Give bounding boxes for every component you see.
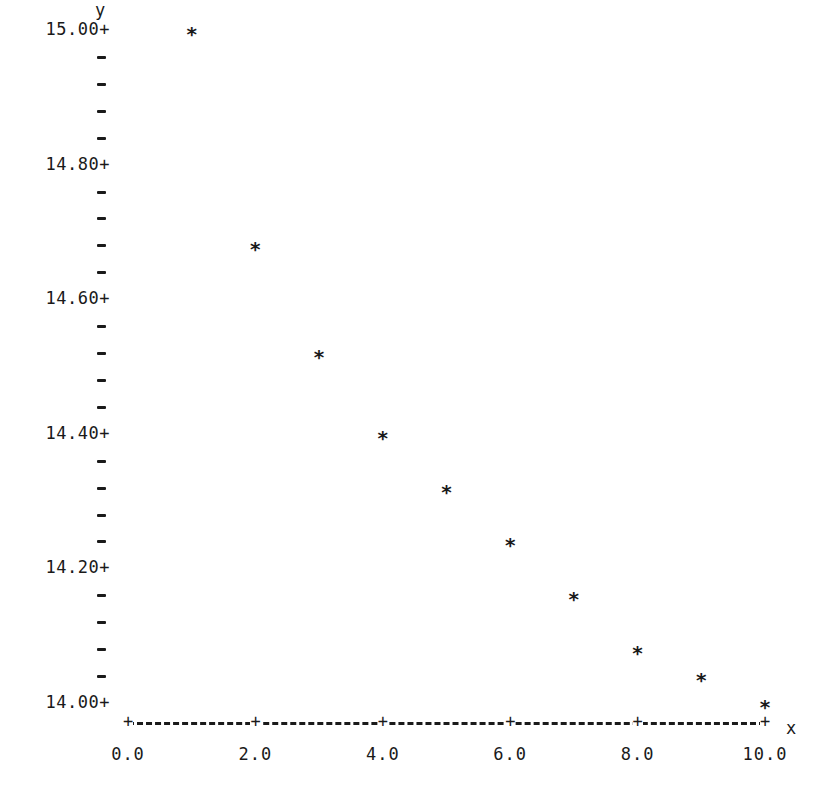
data-point: * <box>313 347 325 367</box>
y-minor-tick <box>97 352 106 355</box>
y-minor-tick <box>97 621 106 624</box>
data-point: * <box>186 24 198 44</box>
y-minor-tick <box>97 83 106 86</box>
data-point: * <box>504 535 516 555</box>
y-tick-label: 14.20+ <box>0 557 110 577</box>
x-tick-label: 4.0 <box>366 744 400 764</box>
y-minor-tick <box>97 325 106 328</box>
y-minor-tick <box>97 594 106 597</box>
y-minor-tick <box>97 244 106 247</box>
x-major-tick: + <box>123 711 133 731</box>
y-axis-name: y <box>95 0 105 20</box>
y-minor-tick <box>97 379 106 382</box>
x-tick-label: 8.0 <box>621 744 655 764</box>
y-tick-label: 14.40+ <box>0 423 110 443</box>
data-point: * <box>759 697 771 717</box>
y-minor-tick <box>97 56 106 59</box>
data-point: * <box>632 643 644 663</box>
y-minor-tick <box>97 514 106 517</box>
data-point: * <box>695 670 707 690</box>
y-tick-label: 15.00+ <box>0 19 110 39</box>
y-tick-label: 14.60+ <box>0 288 110 308</box>
y-tick-label: 14.00+ <box>0 692 110 712</box>
y-minor-tick <box>97 406 106 409</box>
y-minor-tick <box>97 675 106 678</box>
y-minor-tick <box>97 137 106 140</box>
x-axis-line <box>128 722 765 725</box>
x-tick-label: 10.0 <box>743 744 788 764</box>
x-tick-label: 2.0 <box>239 744 273 764</box>
x-tick-label: 0.0 <box>111 744 145 764</box>
x-axis-name: x <box>786 718 796 738</box>
data-point: * <box>440 482 452 502</box>
y-minor-tick <box>97 191 106 194</box>
data-point: * <box>249 239 261 259</box>
data-point: * <box>377 428 389 448</box>
y-minor-tick <box>97 460 106 463</box>
y-minor-tick <box>97 217 106 220</box>
data-point: * <box>568 589 580 609</box>
y-minor-tick <box>97 648 106 651</box>
y-minor-tick <box>97 487 106 490</box>
y-minor-tick <box>97 540 106 543</box>
x-major-tick: + <box>250 711 260 731</box>
x-major-tick: + <box>378 711 388 731</box>
y-minor-tick <box>97 110 106 113</box>
x-major-tick: + <box>633 711 643 731</box>
x-tick-label: 6.0 <box>493 744 527 764</box>
y-minor-tick <box>97 271 106 274</box>
y-tick-label: 14.80+ <box>0 154 110 174</box>
x-major-tick: + <box>505 711 515 731</box>
